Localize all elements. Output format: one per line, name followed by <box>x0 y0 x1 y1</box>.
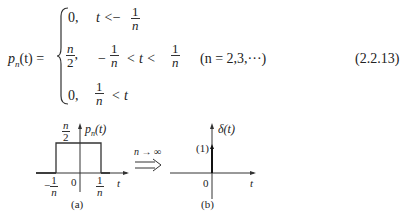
origin-label: 0 <box>203 177 209 189</box>
impulse-strength-label: (1) <box>196 142 209 154</box>
x-axis-label: t <box>250 177 253 189</box>
delta-label: δ(t) <box>218 122 235 137</box>
figure-b-caption: (b) <box>201 198 214 210</box>
